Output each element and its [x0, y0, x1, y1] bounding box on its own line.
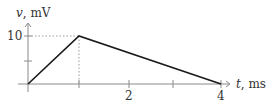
- y-axis-label: v, mV: [16, 6, 51, 20]
- axes: [18, 23, 230, 92]
- x-axis-unit: , ms: [241, 77, 266, 91]
- xtick-label-2: 2: [125, 89, 133, 103]
- data-line: [28, 36, 221, 84]
- y-axis-unit: , mV: [23, 6, 51, 20]
- xtick-label-4: 4: [217, 89, 225, 103]
- chart: v, mV 10 2 4 t, ms: [0, 0, 277, 106]
- ytick-label-10: 10: [7, 29, 22, 43]
- x-axis-label: t, ms: [236, 77, 266, 91]
